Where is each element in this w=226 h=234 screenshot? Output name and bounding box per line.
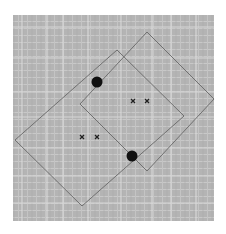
diagram-canvas <box>0 0 226 234</box>
upper-dot <box>92 77 103 88</box>
lower-dot <box>127 151 138 162</box>
gray-background-square <box>13 15 214 221</box>
